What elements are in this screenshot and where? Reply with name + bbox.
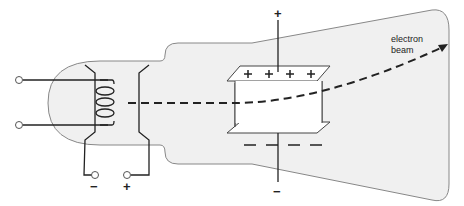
bottom-plate xyxy=(227,122,330,133)
filament-terminal-top xyxy=(16,77,23,84)
anode-terminal xyxy=(124,172,131,179)
cathode-terminal xyxy=(92,172,99,179)
beam-label-line2: beam xyxy=(391,45,414,55)
top-plate-terminal-sign: + xyxy=(274,8,282,20)
filament-terminal-bottom xyxy=(16,122,23,129)
beam-label-line1: electron xyxy=(391,34,423,44)
cathode-terminal-sign: − xyxy=(90,181,98,193)
bottom-plate-terminal-sign: − xyxy=(273,186,281,198)
crt-diagram xyxy=(0,0,464,206)
anode-terminal-sign: + xyxy=(123,181,131,193)
